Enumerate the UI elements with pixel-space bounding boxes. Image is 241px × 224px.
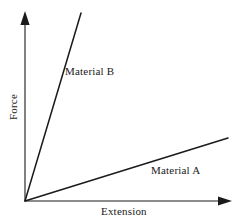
y-axis-label: Force [7, 84, 19, 130]
y-axis [20, 11, 29, 201]
chart-plot-area [0, 0, 241, 224]
series-label-material-a: Material A [151, 164, 200, 176]
x-axis-arrowhead-icon [218, 196, 232, 205]
x-axis-label: Extension [101, 205, 147, 217]
force-extension-chart: Material B Material A Extension Force [0, 0, 241, 224]
y-axis-arrowhead-icon [20, 11, 29, 25]
series-label-material-b: Material B [65, 65, 114, 77]
series-line-material-b [25, 13, 81, 201]
